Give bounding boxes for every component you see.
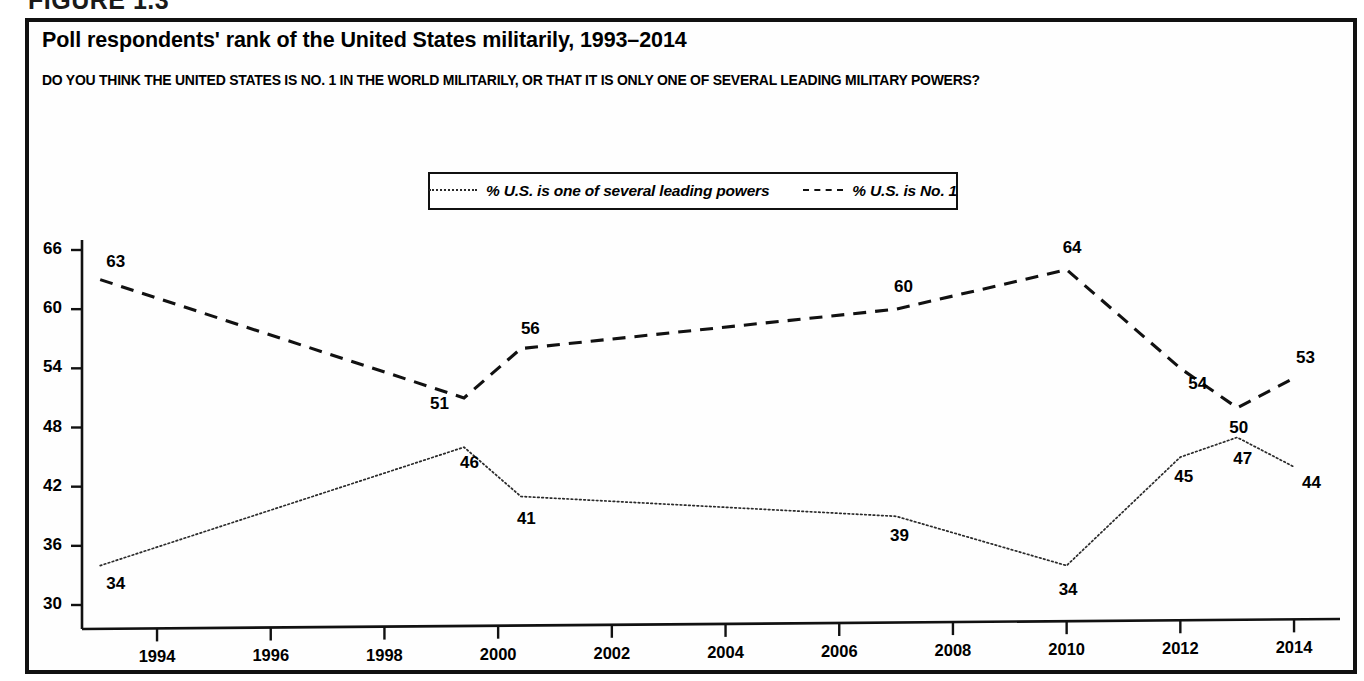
legend-item-leading-powers: % U.S. is one of several leading powers bbox=[429, 182, 769, 200]
chart-legend: % U.S. is one of several leading powers … bbox=[428, 172, 958, 210]
x-axis-tick-label: 1998 bbox=[354, 646, 414, 665]
y-axis-tick-label: 66 bbox=[28, 239, 62, 259]
x-axis-tick-label: 2008 bbox=[923, 641, 983, 660]
legend-dotted-line-icon bbox=[429, 189, 477, 193]
data-point-label: 34 bbox=[1059, 580, 1078, 600]
data-point-label: 47 bbox=[1233, 449, 1252, 469]
figure-frame bbox=[25, 18, 1357, 674]
data-point-label: 50 bbox=[1229, 418, 1248, 438]
data-point-label: 51 bbox=[430, 394, 449, 414]
y-axis-tick-label: 42 bbox=[28, 476, 62, 496]
data-point-label: 46 bbox=[460, 453, 479, 473]
x-axis-tick-label: 2000 bbox=[468, 645, 528, 664]
legend-dashed-line-icon bbox=[803, 189, 843, 193]
chart-title: Poll respondents' rank of the United Sta… bbox=[42, 28, 687, 53]
legend-label-no-1: % U.S. is No. 1 bbox=[852, 182, 957, 200]
data-point-label: 44 bbox=[1302, 473, 1321, 493]
data-point-label: 64 bbox=[1063, 238, 1082, 258]
data-point-label: 60 bbox=[894, 277, 913, 297]
y-axis-tick-label: 54 bbox=[28, 357, 62, 377]
data-point-label: 41 bbox=[517, 509, 536, 529]
x-axis-tick-label: 2014 bbox=[1264, 638, 1324, 657]
data-point-label: 34 bbox=[106, 574, 125, 594]
data-point-label: 53 bbox=[1296, 348, 1315, 368]
data-point-label: 63 bbox=[106, 252, 125, 272]
legend-label-leading-powers: % U.S. is one of several leading powers bbox=[486, 182, 769, 200]
x-axis-tick-label: 2004 bbox=[696, 643, 756, 662]
y-axis-tick-label: 30 bbox=[28, 594, 62, 614]
x-axis-tick-label: 1994 bbox=[127, 647, 187, 666]
y-axis-tick-label: 36 bbox=[28, 535, 62, 555]
x-axis-tick-label: 2002 bbox=[582, 644, 642, 663]
legend-item-no-1: % U.S. is No. 1 bbox=[803, 182, 957, 200]
data-point-label: 54 bbox=[1188, 374, 1207, 394]
x-axis-tick-label: 2012 bbox=[1150, 639, 1210, 658]
y-axis-tick-label: 48 bbox=[28, 417, 62, 437]
y-axis-tick-label: 60 bbox=[28, 298, 62, 318]
chart-subtitle: DO YOU THINK THE UNITED STATES IS NO. 1 … bbox=[42, 72, 980, 88]
x-axis-tick-label: 1996 bbox=[241, 646, 301, 665]
data-point-label: 56 bbox=[521, 319, 540, 339]
data-point-label: 39 bbox=[890, 526, 909, 546]
x-axis-tick-label: 2010 bbox=[1037, 640, 1097, 659]
data-point-label: 45 bbox=[1174, 467, 1193, 487]
x-axis-tick-label: 2006 bbox=[809, 642, 869, 661]
figure-number-label: FIGURE 1.3 bbox=[28, 0, 169, 15]
